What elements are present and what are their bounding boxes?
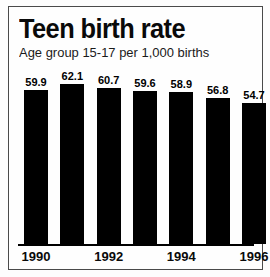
bar: [242, 103, 266, 244]
bar-group: 54.7: [242, 59, 266, 244]
bar-value-label: 54.7: [243, 89, 264, 101]
chart-frame: Teen birth rate Age group 15-17 per 1,00…: [8, 6, 263, 270]
x-axis-tick-label: 1990: [16, 248, 56, 266]
bar: [206, 98, 230, 244]
bar-value-label: 60.7: [98, 74, 119, 86]
bar-group: 56.8: [206, 59, 230, 244]
bar-value-label: 62.1: [62, 70, 83, 82]
bar-value-label: 59.6: [134, 77, 155, 89]
bar: [60, 84, 84, 244]
x-axis-tick-label: 1996: [234, 248, 270, 266]
x-axis-tick-labels: 1990199219941996: [24, 248, 250, 268]
chart-plot: 59.962.160.759.658.956.854.7 19901992199…: [16, 59, 256, 265]
bar: [24, 90, 48, 244]
x-axis-tick-label: 1994: [161, 248, 201, 266]
page-title: Teen birth rate: [19, 15, 247, 43]
bar: [97, 88, 121, 244]
bar-group: 62.1: [60, 59, 84, 244]
bar: [133, 91, 157, 245]
x-axis-line: [18, 244, 254, 246]
bars-container: 59.962.160.759.658.956.854.7: [24, 59, 250, 244]
bar: [169, 92, 193, 244]
bar-group: 58.9: [169, 59, 193, 244]
chart-figure: Teen birth rate Age group 15-17 per 1,00…: [0, 0, 270, 277]
bar-group: 60.7: [97, 59, 121, 244]
bar-group: 59.9: [24, 59, 48, 244]
chart-header: Teen birth rate Age group 15-17 per 1,00…: [9, 7, 262, 61]
x-axis-tick-label: 1992: [89, 248, 129, 266]
bar-value-label: 59.9: [25, 76, 46, 88]
bar-group: 59.6: [133, 59, 157, 244]
bar-value-label: 58.9: [171, 78, 192, 90]
bar-value-label: 56.8: [207, 84, 228, 96]
